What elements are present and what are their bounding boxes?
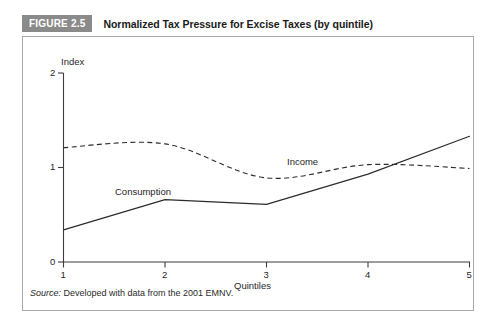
y-tick-label-2: 2 bbox=[50, 67, 55, 78]
y-tick-label-0: 0 bbox=[50, 256, 55, 267]
income-series-line bbox=[64, 142, 470, 178]
consumption-series-label: Consumption bbox=[115, 186, 171, 197]
x-tick-label-2: 2 bbox=[162, 269, 167, 280]
x-tick-label-1: 1 bbox=[61, 269, 66, 280]
consumption-series-line bbox=[64, 136, 470, 230]
source-text: Developed with data from the 2001 EMNV. bbox=[61, 288, 233, 298]
source-prefix: Source: bbox=[30, 288, 61, 298]
source-note: Source: Developed with data from the 200… bbox=[30, 288, 233, 298]
x-tick-label-3: 3 bbox=[264, 269, 269, 280]
x-tick-label-5: 5 bbox=[467, 269, 472, 280]
figure-container: FIGURE 2.5 Normalized Tax Pressure for E… bbox=[0, 0, 496, 332]
x-tick-label-4: 4 bbox=[365, 269, 370, 280]
income-series-label: Income bbox=[287, 156, 318, 167]
x-axis-title: Quintiles bbox=[234, 280, 271, 291]
y-axis-title: Index bbox=[61, 56, 84, 67]
y-tick-label-1: 1 bbox=[50, 161, 55, 172]
